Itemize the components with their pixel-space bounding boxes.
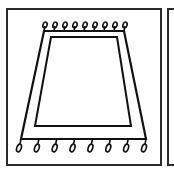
rug-inner-border	[35, 37, 131, 126]
tassel	[62, 21, 68, 28]
tassel	[112, 21, 118, 28]
tassel	[105, 143, 112, 152]
rug-outer-edge	[21, 31, 146, 139]
tassel	[87, 143, 94, 152]
tassel	[42, 21, 48, 28]
tassel	[102, 21, 108, 28]
tassel	[33, 143, 40, 152]
rug-drawing	[0, 0, 174, 171]
bottom-fringe	[16, 139, 148, 153]
tassel	[52, 21, 58, 28]
tassel	[123, 143, 130, 152]
tassel	[51, 143, 58, 152]
top-fringe	[42, 21, 128, 31]
tassel	[141, 143, 148, 152]
tassel	[92, 21, 98, 28]
tassel	[69, 143, 76, 152]
tassel	[16, 143, 23, 152]
tassel	[82, 21, 88, 28]
tassel	[72, 21, 78, 28]
tassel	[122, 21, 128, 28]
